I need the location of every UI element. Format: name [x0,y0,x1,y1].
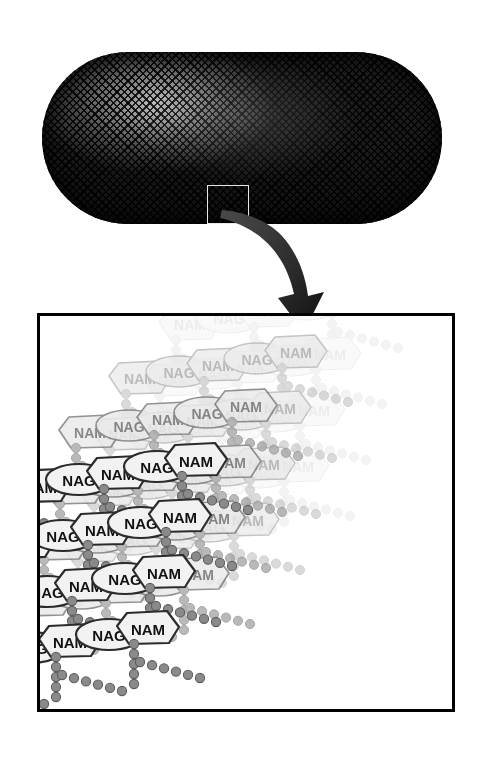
peptide-bead [51,692,60,701]
peptide-bead [69,674,78,683]
peptide-bead [279,517,288,526]
peptide-bead [40,699,49,708]
peptide-bead [117,686,126,695]
peptide-bead [105,683,114,692]
peptide-bead [51,662,60,671]
peptide-bead [187,611,196,620]
peptide-bead [393,343,402,352]
peptide-bead [177,481,186,490]
peptidoglycan-detail-panel: NAMNAGNAMNAGNAMNAMNAGNAMNAGNAMNAMNAGNAMN… [37,313,455,712]
peptide-bead [311,375,320,384]
peptide-bead [121,389,130,398]
peptide-bead [333,327,342,336]
peptide-bead [57,670,66,679]
peptide-bead [311,509,320,518]
nag-label: NAG [213,316,244,327]
peptide-bead [321,505,330,514]
peptide-bead [203,555,212,564]
peptide-bead [145,593,154,602]
peptide-bead [299,506,308,515]
peptide-bead [261,429,270,438]
peptide-bead [227,417,236,426]
peptide-bead [237,557,246,566]
peptide-bead [269,445,278,454]
peptide-bead [81,677,90,686]
peptide-bead [99,484,108,493]
peptide-bead [349,452,358,461]
peptide-bead [357,334,366,343]
peptide-bead [133,496,142,505]
peptide-bead [145,583,154,592]
peptide-bead [105,502,114,511]
peptide-bead [229,571,238,580]
peptide-bead [303,447,312,456]
nam-label: NAM [230,399,262,415]
peptide-bead [337,449,346,458]
peptide-bead [327,453,336,462]
peptide-bead [353,393,362,402]
peptide-bead [199,614,208,623]
peptide-bead [233,616,242,625]
peptide-bead [331,394,340,403]
peptide-bead [171,335,180,344]
peptide-bead [227,561,236,570]
peptide-bead [199,376,208,385]
peptide-bead [233,435,242,444]
peptide-bead [369,337,378,346]
peptide-bead [67,606,76,615]
peptide-bead [327,316,336,319]
peptide-bead [191,552,200,561]
peptide-bead [211,617,220,626]
peptide-bead [245,485,254,494]
nam-label: NAM [280,345,312,361]
peptide-bead [377,399,386,408]
peptide-bead [361,455,370,464]
peptide-bead [381,340,390,349]
peptide-bead [253,501,262,510]
peptide-bead [40,565,49,574]
peptide-bead [283,381,292,390]
peptide-bead [167,545,176,554]
nam-label: NAM [179,453,213,470]
nam-label: NAM [252,316,284,320]
peptide-bead [343,397,352,406]
peptide-bead [319,391,328,400]
peptide-bead [295,565,304,574]
peptide-bead [283,562,292,571]
peptide-bead [161,537,170,546]
peptide-bead [287,503,296,512]
peptide-bead [249,332,258,341]
peptide-bead [307,388,316,397]
peptide-bead [55,509,64,518]
peptide-bead [71,443,80,452]
peptide-bead [271,559,280,568]
peptide-bead [73,614,82,623]
bacterium-cell [42,52,442,224]
peptide-bead [179,595,188,604]
peptide-bead [249,322,258,331]
peptide-bead [245,619,254,628]
peptide-bead [249,560,258,569]
peptide-bead [171,345,180,354]
peptide-bead [129,639,138,648]
peptide-bead [171,667,180,676]
peptidoglycan-lattice: NAMNAGNAMNAGNAMNAMNAGNAMNAGNAMNAMNAGNAMN… [40,316,455,712]
peptide-bead [265,504,274,513]
peptide-bead [295,431,304,440]
peptide-bead [277,363,286,372]
peptide-bead [117,552,126,561]
peptide-bead [221,613,230,622]
peptide-bead [183,489,192,498]
peptide-bead [327,319,336,328]
peptide-bead [315,450,324,459]
peptide-bead [261,563,270,572]
peptide-bead [215,558,224,567]
peptide-bead [135,657,144,666]
peptide-bead [195,539,204,548]
peptide-bead [83,540,92,549]
peptide-bead [51,652,60,661]
peptide-bead [83,550,92,559]
peptide-bead [293,451,302,460]
nam-label: NAM [163,509,197,526]
peptide-bead [257,442,266,451]
